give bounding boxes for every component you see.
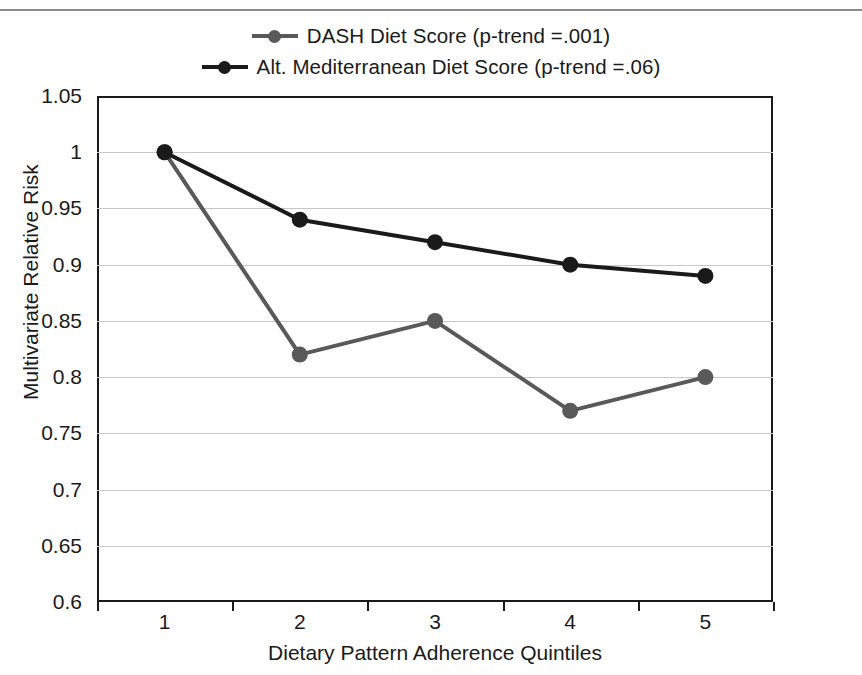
data-point (697, 268, 713, 284)
x-axis-tick-label: 1 (159, 610, 171, 634)
x-axis-tick-label: 2 (294, 610, 306, 634)
top-divider-rule (0, 9, 862, 11)
y-axis-tick-label: 1 (70, 140, 82, 164)
data-point (562, 257, 578, 273)
x-axis-tick-labels: 12345 (97, 610, 773, 642)
series-layer (97, 96, 773, 602)
data-point (697, 369, 713, 385)
y-axis-tick-label: 0.85 (41, 309, 82, 333)
data-point (157, 144, 173, 160)
data-point (292, 212, 308, 228)
legend-label-mediterranean: Alt. Mediterranean Diet Score (p-trend =… (257, 55, 661, 79)
legend-dot-dash (268, 30, 281, 43)
data-point (562, 403, 578, 419)
x-axis-tick-label: 4 (564, 610, 576, 634)
chart-legend: DASH Diet Score (p-trend =.001) Alt. Med… (0, 24, 862, 79)
data-point (292, 347, 308, 363)
legend-item-dash: DASH Diet Score (p-trend =.001) (252, 24, 610, 48)
y-axis-tick-label: 0.6 (53, 590, 82, 614)
data-point (427, 313, 443, 329)
y-axis-tick-label: 0.7 (53, 478, 82, 502)
legend-dot-mediterranean (218, 61, 231, 74)
y-axis-tick-label: 0.95 (41, 196, 82, 220)
y-axis-tick-label: 0.75 (41, 421, 82, 445)
legend-marker-mediterranean (202, 58, 248, 76)
legend-marker-dash (252, 27, 298, 45)
y-axis-tick-label: 0.8 (53, 365, 82, 389)
series-line-mediterranean (165, 152, 706, 276)
y-axis-tick-label: 1.05 (41, 84, 82, 108)
legend-item-mediterranean: Alt. Mediterranean Diet Score (p-trend =… (202, 55, 661, 79)
x-axis-title: Dietary Pattern Adherence Quintiles (97, 641, 773, 665)
x-axis-tick (773, 602, 775, 611)
x-axis-tick-label: 5 (700, 610, 712, 634)
y-axis-tick-label: 0.9 (53, 253, 82, 277)
chart-figure: DASH Diet Score (p-trend =.001) Alt. Med… (0, 0, 862, 675)
data-point (427, 234, 443, 250)
y-axis-tick-label: 0.65 (41, 534, 82, 558)
plot-area (97, 96, 773, 602)
y-axis-title: Multivariate Relative Risk (19, 32, 43, 532)
y-axis-tick-labels: 1.0510.950.90.850.80.750.70.650.6 (0, 96, 90, 602)
legend-label-dash: DASH Diet Score (p-trend =.001) (307, 24, 610, 48)
x-axis-tick-label: 3 (429, 610, 441, 634)
